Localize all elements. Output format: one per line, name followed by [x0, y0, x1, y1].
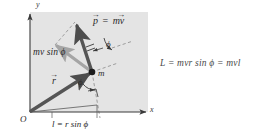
position-vector-label: r→ — [52, 76, 56, 86]
mv-vector-glyph: mv→ — [113, 16, 125, 26]
mass-label: m — [98, 69, 105, 78]
x-axis-label: x — [150, 106, 154, 114]
angular-momentum-equation: L = mvr sin ϕ = mvl — [160, 59, 240, 69]
y-axis-label: y — [36, 1, 40, 9]
momentum-equals-sign: = — [101, 15, 111, 26]
mass-point-dot — [89, 69, 96, 76]
perpendicular-component-label: mv sin ϕ — [33, 48, 66, 58]
r-vector-glyph: r→ — [52, 76, 56, 86]
p-vector-glyph: p→ — [93, 16, 98, 26]
angle-label-origin: ϕ — [78, 78, 83, 87]
moment-arm-label: l = r sin ϕ — [52, 120, 88, 129]
origin-label: O — [20, 115, 27, 124]
figure-canvas — [0, 0, 260, 137]
angle-label-momentum: ϕ — [106, 40, 111, 49]
momentum-vector-label: p→ = mv→ — [93, 16, 124, 26]
angular-momentum-figure: y x O m p→ = mv→ r→ mv sin ϕ ϕ ϕ l = r s… — [0, 0, 260, 137]
